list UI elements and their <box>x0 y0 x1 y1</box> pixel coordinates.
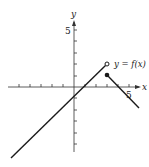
y-tick-label-5: 5 <box>65 26 71 36</box>
x-axis-arrow-icon <box>135 85 141 89</box>
graph-segment-left <box>11 66 106 159</box>
function-label: y = f(x) <box>113 59 146 69</box>
closed-endpoint <box>105 73 110 78</box>
y-axis-label: y <box>70 9 77 19</box>
graph-segment-right <box>107 75 139 108</box>
open-endpoint <box>105 62 109 66</box>
x-axis-label: x <box>142 82 147 92</box>
y-axis-arrow-icon <box>72 20 76 26</box>
function-graph: y 5 x 5 y = f(x) <box>0 0 149 167</box>
